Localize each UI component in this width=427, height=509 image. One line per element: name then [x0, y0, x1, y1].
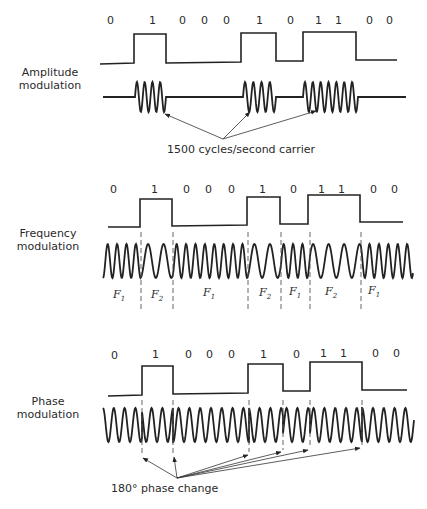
bit-label: 0: [185, 348, 192, 361]
bit-label: 0: [228, 183, 235, 196]
bit-label: 1: [318, 183, 325, 196]
am-panel: 0 1 0 0 0 1 0 1 1 0 0 Amplitude modulati…: [19, 14, 406, 156]
fm-data-signal: [108, 195, 403, 227]
am-label-line2: modulation: [19, 79, 81, 92]
pm-bit-labels: 0 1 0 0 0 1 0 1 1 0 0: [111, 347, 400, 362]
fm-label-line2: modulation: [17, 240, 79, 253]
am-carrier-wave: [103, 82, 406, 112]
bit-label: 0: [179, 14, 186, 27]
bit-label: 0: [366, 14, 373, 27]
frequency-label: F1: [202, 286, 215, 301]
bit-label: 1: [259, 183, 266, 196]
bit-label: 0: [183, 183, 190, 196]
bit-label: 0: [223, 14, 230, 27]
bit-label: 0: [287, 14, 294, 27]
bit-label: 1: [335, 14, 342, 27]
pm-data-signal: [108, 362, 407, 396]
bit-label: 0: [386, 14, 393, 27]
frequency-label: F2: [258, 286, 272, 301]
bit-label: 1: [149, 14, 156, 27]
am-carrier-annotation: 1500 cycles/second carrier: [167, 143, 316, 156]
pm-panel: 0 1 0 0 0 1 0 1 1 0 0 Phase modulation: [17, 347, 414, 495]
frequency-label: F1: [288, 285, 301, 300]
bit-label: 1: [320, 347, 327, 360]
bit-label: 0: [391, 183, 398, 196]
am-label-line1: Amplitude: [22, 66, 79, 79]
pm-carrier-wave: [103, 408, 414, 442]
bit-label: 1: [152, 348, 159, 361]
pm-label-line1: Phase: [32, 395, 65, 408]
bit-label: 0: [206, 348, 213, 361]
bit-label: 0: [111, 349, 118, 362]
bit-label: 1: [151, 183, 158, 196]
frequency-label: F2: [324, 285, 338, 300]
am-bit-labels: 0 1 0 0 0 1 0 1 1 0 0: [107, 14, 393, 27]
frequency-label: F1: [112, 288, 125, 303]
bit-label: 1: [260, 348, 267, 361]
frequency-label: F2: [150, 288, 164, 303]
fm-label-line1: Frequency: [20, 227, 77, 240]
fm-panel: 0 1 0 0 0 1 0 1 1 0 0 Frequency modulati…: [17, 183, 413, 312]
fm-frequency-labels: F1 F2 F1 F2 F1 F2 F1: [112, 284, 380, 303]
bit-label: 0: [293, 348, 300, 361]
fm-bit-labels: 0 1 0 0 0 1 0 1 1 0 0: [110, 183, 398, 196]
bit-label: 1: [338, 183, 345, 196]
pm-phase-arrows: [143, 448, 360, 478]
bit-label: 1: [340, 347, 347, 360]
bit-label: 0: [370, 183, 377, 196]
pm-phase-annotation: 180° phase change: [111, 482, 218, 495]
fm-carrier-wave: [103, 244, 413, 278]
bit-label: 0: [393, 347, 400, 360]
bit-label: 1: [315, 14, 322, 27]
am-data-signal: [100, 32, 397, 64]
bit-label: 0: [201, 14, 208, 27]
modulation-diagram: 0 1 0 0 0 1 0 1 1 0 0 Amplitude modulati…: [0, 0, 427, 509]
pm-label-line2: modulation: [17, 408, 79, 421]
bit-label: 0: [290, 183, 297, 196]
bit-label: 0: [205, 183, 212, 196]
bit-label: 0: [107, 14, 114, 27]
bit-label: 0: [228, 348, 235, 361]
bit-label: 1: [256, 14, 263, 27]
bit-label: 0: [372, 347, 379, 360]
am-carrier-arrows: [165, 111, 316, 139]
frequency-label: F1: [367, 284, 380, 299]
bit-label: 0: [110, 183, 117, 196]
